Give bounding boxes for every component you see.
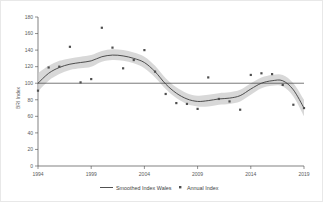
- confidence-band: [38, 49, 304, 116]
- data-point: [292, 104, 294, 106]
- data-point: [122, 67, 124, 69]
- y-tick-label: 60: [27, 113, 33, 119]
- data-point: [165, 93, 167, 95]
- y-tick-label: 160: [25, 30, 34, 36]
- data-point: [271, 73, 273, 75]
- data-point: [58, 66, 60, 68]
- y-tick-labels: 020406080100120140160180: [25, 14, 34, 169]
- data-point: [143, 49, 145, 51]
- data-point: [69, 46, 71, 48]
- data-point: [133, 59, 135, 61]
- x-tick-marks: [38, 166, 304, 169]
- y-tick-label: 40: [27, 130, 33, 136]
- x-tick-label: 2019: [298, 171, 309, 177]
- data-point: [303, 107, 305, 109]
- data-point: [101, 27, 103, 29]
- data-point: [111, 47, 113, 49]
- data-point: [207, 76, 209, 78]
- y-tick-label: 180: [25, 14, 34, 20]
- data-point: [282, 84, 284, 86]
- legend-label-smoothed: Smoothed Index Wales: [116, 185, 172, 191]
- data-point: [239, 109, 241, 111]
- y-tick-label: 20: [27, 146, 33, 152]
- legend-square-swatch: [179, 186, 181, 188]
- legend: Smoothed Index Wales Annual Index: [100, 185, 219, 191]
- x-tick-labels: 199419992004200920142019: [32, 171, 309, 177]
- data-point: [154, 71, 156, 73]
- x-tick-label: 2009: [192, 171, 203, 177]
- legend-label-annual: Annual Index: [187, 185, 219, 191]
- data-point: [186, 103, 188, 105]
- y-tick-label: 140: [25, 47, 34, 53]
- chart-svg: 020406080100120140160180 BRI Index 19941…: [1, 1, 323, 202]
- data-point: [90, 78, 92, 80]
- x-tick-label: 2004: [139, 171, 150, 177]
- x-tick-label: 1999: [86, 171, 97, 177]
- chart-figure: 020406080100120140160180 BRI Index 19941…: [0, 0, 323, 202]
- data-point: [218, 98, 220, 100]
- x-tick-label: 1994: [32, 171, 43, 177]
- y-tick-label: 100: [25, 80, 34, 86]
- y-tick-label: 120: [25, 63, 34, 69]
- data-point: [79, 81, 81, 83]
- plot-area: [37, 27, 305, 117]
- data-point: [37, 90, 39, 92]
- y-axis-group: 020406080100120140160180 BRI Index: [15, 14, 38, 169]
- data-point: [197, 108, 199, 110]
- x-axis-group: 199419992004200920142019: [32, 166, 309, 177]
- data-point: [228, 100, 230, 102]
- x-tick-label: 2014: [245, 171, 256, 177]
- data-point: [175, 102, 177, 104]
- data-point: [48, 66, 50, 68]
- data-point: [260, 72, 262, 74]
- data-point: [250, 74, 252, 76]
- y-tick-label: 80: [27, 97, 33, 103]
- y-tick-label: 0: [30, 163, 33, 169]
- y-axis-title: BRI Index: [15, 87, 21, 109]
